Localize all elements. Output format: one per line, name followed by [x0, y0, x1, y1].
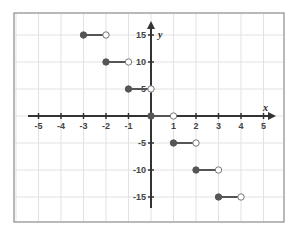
y-tick-label: 10	[136, 57, 146, 67]
open-point-icon	[148, 86, 154, 92]
x-tick-label: 1	[171, 121, 176, 131]
x-tick-label: 5	[261, 121, 266, 131]
x-tick-label: -1	[124, 121, 132, 131]
closed-point-icon	[125, 86, 131, 92]
open-point-icon	[125, 59, 131, 65]
y-tick-label: 15	[136, 30, 146, 40]
x-tick-label: -4	[57, 121, 65, 131]
x-tick-label: 2	[193, 121, 198, 131]
y-tick-label: -10	[133, 165, 146, 175]
closed-point-icon	[193, 167, 199, 173]
x-axis-label: x	[262, 102, 268, 113]
x-tick-label: -5	[34, 121, 42, 131]
x-tick-label: 4	[238, 121, 243, 131]
closed-point-icon	[80, 32, 86, 38]
y-axis-label: y	[157, 29, 163, 40]
step-function-chart: x y -5-4-3-2-11234515105-5-10-15	[0, 0, 290, 229]
open-point-icon	[238, 194, 244, 200]
open-point-icon	[193, 140, 199, 146]
x-tick-label: -3	[79, 121, 87, 131]
open-point-icon	[215, 167, 221, 173]
closed-point-icon	[215, 194, 221, 200]
y-tick-label: -5	[138, 138, 146, 148]
x-tick-label: 3	[216, 121, 221, 131]
closed-point-icon	[148, 113, 154, 119]
closed-point-icon	[170, 140, 176, 146]
x-tick-label: -2	[102, 121, 110, 131]
open-point-icon	[170, 113, 176, 119]
closed-point-icon	[103, 59, 109, 65]
open-point-icon	[103, 32, 109, 38]
y-tick-label: -15	[133, 192, 146, 202]
